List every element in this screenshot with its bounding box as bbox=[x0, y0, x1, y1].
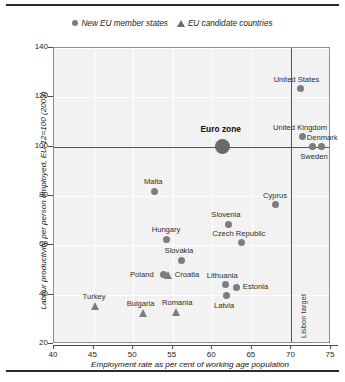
data-point-label: Hungary bbox=[152, 225, 181, 234]
data-point-label: Sweden bbox=[300, 152, 327, 161]
eu12-reference-line bbox=[54, 147, 329, 148]
legend-label: New EU member states bbox=[81, 19, 167, 28]
circle-marker-icon bbox=[222, 281, 229, 288]
chart-legend: New EU member states EU candidate countr… bbox=[0, 16, 345, 30]
data-point-label: Slovakia bbox=[165, 246, 194, 255]
data-point-label: Croatia bbox=[175, 270, 199, 279]
circle-marker-icon bbox=[272, 201, 279, 208]
x-axis-line bbox=[53, 345, 338, 346]
data-point-label: Euro zone bbox=[201, 125, 241, 134]
data-point-label: Estonia bbox=[243, 282, 268, 291]
y-axis-tick-label: 140 bbox=[22, 42, 48, 51]
triangle-marker-icon bbox=[91, 302, 99, 310]
circle-marker-icon bbox=[223, 292, 230, 299]
legend-label: EU candidate countries bbox=[188, 19, 273, 28]
x-axis-tick-label: 70 bbox=[277, 350, 303, 359]
data-point-label: United Kingdom bbox=[273, 123, 327, 132]
gridline-horizontal bbox=[54, 196, 329, 197]
x-axis-tick-label: 65 bbox=[238, 350, 264, 359]
circle-marker-icon bbox=[178, 257, 185, 264]
data-point-label: Poland bbox=[130, 270, 154, 279]
data-point-label: Bulgaria bbox=[127, 299, 155, 308]
gridline-vertical bbox=[212, 48, 213, 342]
circle-marker-icon bbox=[309, 143, 316, 150]
data-point-label: Latvia bbox=[214, 301, 234, 310]
x-axis-title: Employment rate as per cent of working a… bbox=[40, 360, 340, 369]
lisbon-target-line bbox=[291, 48, 292, 342]
circle-marker-icon bbox=[233, 284, 240, 291]
x-axis-tick-label: 75 bbox=[317, 350, 343, 359]
triangle-marker-icon bbox=[172, 308, 180, 316]
data-point-label: Denmark bbox=[307, 133, 338, 142]
data-point-label: Turkey bbox=[83, 292, 106, 301]
triangle-marker-icon bbox=[139, 309, 147, 317]
data-point-label: Romania bbox=[162, 298, 192, 307]
data-point-label: Czech Republic bbox=[212, 229, 265, 238]
circle-marker-icon bbox=[318, 143, 325, 150]
circle-marker-icon bbox=[72, 20, 78, 26]
circle-marker-icon bbox=[151, 188, 158, 195]
circle-marker-icon bbox=[215, 139, 230, 154]
triangle-marker-icon bbox=[177, 20, 185, 27]
gridline-horizontal bbox=[54, 48, 329, 49]
legend-item-new-eu-member-states: New EU member states bbox=[72, 19, 167, 28]
legend-item-eu-candidate-countries: EU candidate countries bbox=[177, 19, 273, 28]
chart-page: New EU member states EU candidate countr… bbox=[0, 0, 345, 382]
x-axis-tick-label: 55 bbox=[159, 350, 185, 359]
y-axis-tick-mark bbox=[48, 343, 53, 344]
data-point-label: Slovenia bbox=[211, 210, 240, 219]
circle-marker-icon bbox=[163, 236, 170, 243]
scatter-plot-area: Lisbon target MaltaHungarySlovakiaPoland… bbox=[53, 47, 330, 343]
top-divider-rule bbox=[6, 4, 339, 6]
x-axis-tick-label: 40 bbox=[40, 350, 66, 359]
data-point-label: Lithuania bbox=[207, 271, 238, 280]
gridline-vertical bbox=[252, 48, 253, 342]
data-point-label: Cyprus bbox=[263, 191, 287, 200]
triangle-marker-icon bbox=[164, 271, 172, 279]
gridline-vertical bbox=[133, 48, 134, 342]
y-axis-title: Labour productivity per person employed,… bbox=[39, 66, 48, 336]
circle-marker-icon bbox=[225, 221, 232, 228]
y-axis-tick-label: 20 bbox=[22, 338, 48, 347]
bottom-divider-rule bbox=[6, 370, 339, 372]
data-point-label: United States bbox=[274, 75, 320, 84]
x-axis-tick-label: 45 bbox=[80, 350, 106, 359]
circle-marker-icon bbox=[297, 85, 304, 92]
gridline-vertical bbox=[331, 48, 332, 342]
x-axis-tick-label: 50 bbox=[119, 350, 145, 359]
data-point-label: Malta bbox=[144, 177, 163, 186]
lisbon-target-label: Lisbon target bbox=[299, 294, 308, 338]
gridline-horizontal bbox=[54, 97, 329, 98]
x-axis-tick-label: 60 bbox=[198, 350, 224, 359]
circle-marker-icon bbox=[299, 133, 306, 140]
